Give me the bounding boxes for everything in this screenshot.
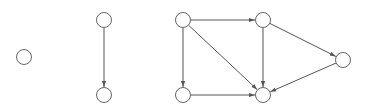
- node-f: [176, 88, 191, 103]
- node-b: [97, 13, 112, 28]
- node-h: [336, 53, 351, 68]
- node-c: [97, 88, 112, 103]
- edge-e-to-h: [270, 23, 336, 56]
- graph-canvas: [0, 0, 368, 108]
- node-g: [256, 88, 271, 103]
- node-d: [176, 13, 191, 28]
- edge-d-to-g: [188, 25, 257, 89]
- edge-h-to-g: [270, 63, 336, 92]
- node-a: [17, 50, 32, 65]
- directed-graph-diagram: [0, 0, 368, 108]
- node-e: [256, 13, 271, 28]
- edge-layer: [104, 20, 336, 95]
